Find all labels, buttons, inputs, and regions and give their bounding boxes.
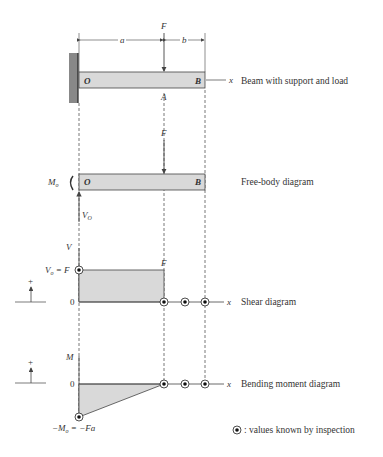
- moment-area: [79, 384, 164, 417]
- fbd-force-label: F: [160, 128, 167, 138]
- beam-diagram-figure: a b F O B A x Beam with support and load…: [0, 0, 383, 457]
- shear-area: [79, 270, 164, 302]
- shear-zero-label: 0: [70, 297, 75, 307]
- point-a-label: A: [160, 92, 167, 102]
- vo-equals-f-label: Vo = F: [45, 265, 70, 276]
- beam-caption: Beam with support and load: [241, 76, 348, 86]
- x-axis-label: x: [228, 75, 233, 85]
- mo-label: Mo: [47, 177, 59, 188]
- wall-support: [69, 53, 78, 103]
- moment-caption: Bending moment diagram: [241, 379, 341, 389]
- beam: [79, 72, 205, 88]
- moment-zero-label: 0: [70, 379, 75, 389]
- shear-sign-plus: +: [28, 276, 33, 286]
- point-o-label: O: [84, 76, 91, 86]
- fbd-b-label: B: [194, 177, 201, 187]
- dim-a-label: a: [120, 35, 125, 45]
- moment-reaction-icon: [71, 176, 74, 190]
- beam-section: a b F O B A x Beam with support and load: [69, 21, 348, 103]
- legend: : values known by inspection: [233, 425, 355, 435]
- point-b-label: B: [194, 76, 201, 86]
- fbd-beam: [79, 174, 205, 190]
- v-axis-label: V: [66, 242, 73, 252]
- dim-b-label: b: [182, 35, 187, 45]
- fbd-caption: Free-body diagram: [241, 177, 314, 187]
- moment-x-label: x: [226, 379, 231, 389]
- shear-section: V x 0 Vo = F F + Shear diagram: [15, 242, 297, 307]
- moment-sign-plus: +: [28, 357, 33, 367]
- shear-x-label: x: [226, 297, 231, 307]
- force-label: F: [160, 21, 167, 31]
- shear-caption: Shear diagram: [241, 297, 297, 307]
- free-body-section: F O B Mo VO Free-body diagram: [47, 128, 314, 222]
- fbd-o-label: O: [84, 177, 91, 187]
- shear-f-label: F: [160, 258, 167, 268]
- mo-equals-fa-label: −Mo = −Fa: [52, 423, 96, 434]
- projection-lines: [79, 90, 205, 418]
- legend-text: : values known by inspection: [244, 425, 355, 435]
- m-axis-label: M: [65, 352, 74, 362]
- vo-label: VO: [82, 210, 93, 221]
- moment-section: M x 0 −Mo = −Fa + Bending moment diagram: [15, 352, 341, 434]
